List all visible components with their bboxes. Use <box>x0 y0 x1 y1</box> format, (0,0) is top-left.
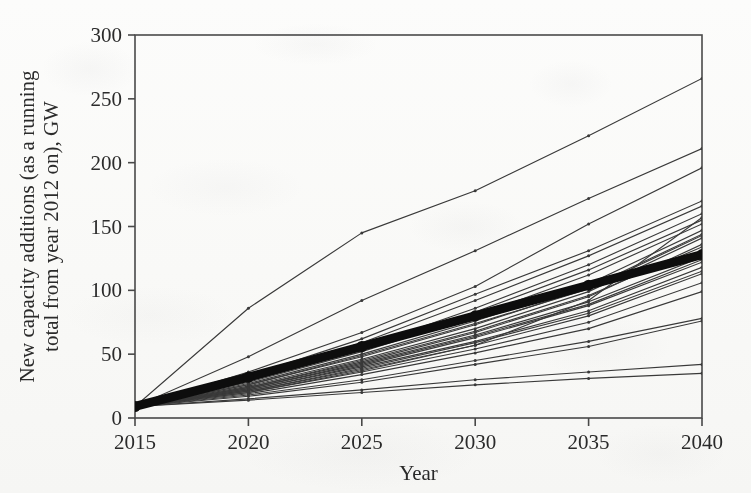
series-point-marker <box>243 372 254 383</box>
y-axis-tick-label: 300 <box>91 23 123 47</box>
series-point-marker <box>474 383 477 386</box>
series-point-marker <box>587 312 590 315</box>
series-point-marker <box>474 299 477 302</box>
y-axis-tick-label: 100 <box>91 278 123 302</box>
series-point-marker <box>360 354 363 357</box>
y-axis-tick-label: 250 <box>91 87 123 111</box>
series-point-marker <box>587 294 590 297</box>
series-line <box>135 206 702 406</box>
series-point-marker <box>587 197 590 200</box>
y-axis-tick-label: 0 <box>112 406 123 430</box>
series-point-marker <box>360 381 363 384</box>
series-point-marker <box>587 309 590 312</box>
series-point-marker <box>360 367 363 370</box>
series-point-marker <box>474 189 477 192</box>
series-point-marker <box>474 322 477 325</box>
series-point-marker <box>587 249 590 252</box>
series-point-marker <box>697 249 708 260</box>
series-point-marker <box>587 314 590 317</box>
series-point-marker <box>247 395 250 398</box>
line-chart: 0501001502002503002015202020252030203520… <box>0 0 751 493</box>
series-point-marker <box>474 335 477 338</box>
series-point-marker <box>474 330 477 333</box>
series-point-marker <box>701 234 704 237</box>
x-axis-tick-label: 2020 <box>227 430 269 454</box>
series-line <box>135 224 702 407</box>
y-axis-tick-label: 200 <box>91 151 123 175</box>
series-point-marker <box>587 377 590 380</box>
x-axis-title: Year <box>399 461 438 485</box>
series-point-marker <box>701 243 704 246</box>
series-point-marker <box>701 199 704 202</box>
series-point-marker <box>587 340 590 343</box>
series-point-marker <box>701 245 704 248</box>
series-point-marker <box>247 307 250 310</box>
series-point-marker <box>360 388 363 391</box>
series-point-marker <box>247 383 250 386</box>
x-axis-tick-label: 2025 <box>341 430 383 454</box>
series-point-marker <box>360 231 363 234</box>
series-point-marker <box>474 351 477 354</box>
series-line-reference <box>135 255 702 407</box>
x-axis-tick-label: 2015 <box>114 430 156 454</box>
series-point-marker <box>474 293 477 296</box>
series-point-marker <box>474 249 477 252</box>
series-point-marker <box>701 266 704 269</box>
series-point-marker <box>701 281 704 284</box>
series-layer <box>130 77 708 412</box>
series-point-marker <box>701 319 704 322</box>
series-point-marker <box>360 378 363 381</box>
series-point-marker <box>474 327 477 330</box>
series-point-marker <box>356 341 367 352</box>
series-line <box>135 201 702 407</box>
series-point-marker <box>701 219 704 222</box>
series-point-marker <box>360 331 363 334</box>
series-point-marker <box>587 222 590 225</box>
series-point-marker <box>587 274 590 277</box>
series-point-marker <box>474 344 477 347</box>
series-point-marker <box>130 401 141 412</box>
series-point-marker <box>587 321 590 324</box>
x-axis-tick-label: 2035 <box>568 430 610 454</box>
series-point-marker <box>360 373 363 376</box>
series-point-marker <box>247 387 250 390</box>
series-point-marker <box>701 363 704 366</box>
series-point-marker <box>701 261 704 264</box>
series-point-marker <box>360 299 363 302</box>
series-point-marker <box>360 363 363 366</box>
series-point-marker <box>360 337 363 340</box>
series-point-marker <box>474 341 477 344</box>
series-point-marker <box>701 290 704 293</box>
series-point-marker <box>587 268 590 271</box>
series-point-marker <box>701 270 704 273</box>
series-point-marker <box>701 372 704 375</box>
y-axis-title: New capacity additions (as a runningtota… <box>15 70 63 382</box>
series-point-marker <box>701 205 704 208</box>
series-point-marker <box>474 359 477 362</box>
series-point-marker <box>587 345 590 348</box>
series-point-marker <box>474 378 477 381</box>
series-point-marker <box>587 263 590 266</box>
series-point-marker <box>474 348 477 351</box>
series-point-marker <box>701 166 704 169</box>
series-point-marker <box>360 391 363 394</box>
series-point-marker <box>701 77 704 80</box>
series-point-marker <box>701 229 704 232</box>
series-point-marker <box>247 355 250 358</box>
series-point-marker <box>247 399 250 402</box>
y-axis-tick-label: 50 <box>101 342 122 366</box>
series-point-marker <box>247 390 250 393</box>
series-point-marker <box>583 280 594 291</box>
series-point-marker <box>701 317 704 320</box>
series-point-marker <box>360 359 363 362</box>
chart-page: 0501001502002503002015202020252030203520… <box>0 0 751 493</box>
series-point-marker <box>474 285 477 288</box>
x-axis-tick-label: 2030 <box>454 430 496 454</box>
series-point-marker <box>474 307 477 310</box>
series-point-marker <box>587 327 590 330</box>
series-point-marker <box>701 236 704 239</box>
series-point-marker <box>701 222 704 225</box>
series-point-marker <box>587 299 590 302</box>
series-point-marker <box>360 369 363 372</box>
series-point-marker <box>587 371 590 374</box>
